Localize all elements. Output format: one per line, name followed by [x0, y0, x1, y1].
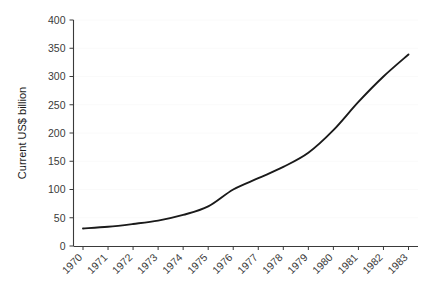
- y-tick-label: 350: [48, 42, 66, 54]
- chart-canvas: 050100150200250300350400 197019711972197…: [0, 0, 432, 293]
- y-tick-label: 150: [48, 155, 66, 167]
- y-tick-label: 400: [48, 14, 66, 26]
- line-chart: 050100150200250300350400 197019711972197…: [0, 0, 432, 293]
- y-tick-label: 250: [48, 99, 66, 111]
- y-tick-label: 200: [48, 127, 66, 139]
- y-tick-label: 300: [48, 70, 66, 82]
- y-axis-label: Current US$ billion: [16, 87, 28, 179]
- y-tick-label: 50: [54, 212, 66, 224]
- y-tick-label: 100: [48, 183, 66, 195]
- y-tick-label: 0: [60, 240, 66, 252]
